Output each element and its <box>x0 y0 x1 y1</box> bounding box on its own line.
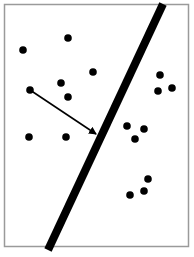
right-cluster-point <box>131 135 139 143</box>
right-cluster-point <box>140 125 148 133</box>
left-cluster-point <box>64 34 72 42</box>
right-cluster-point <box>144 175 152 183</box>
left-cluster-point <box>62 133 70 141</box>
separator-diagram <box>0 0 194 257</box>
right-cluster-point <box>156 71 164 79</box>
left-cluster-point <box>89 68 97 76</box>
left-cluster-point <box>19 46 27 54</box>
left-cluster-point <box>57 79 65 87</box>
right-cluster-point <box>123 122 131 130</box>
left-cluster-point <box>25 133 33 141</box>
left-cluster-point <box>64 93 72 101</box>
diagram-frame <box>5 5 189 247</box>
right-cluster-point <box>154 87 162 95</box>
right-cluster-point <box>168 84 176 92</box>
right-cluster-point <box>140 187 148 195</box>
right-cluster-point <box>126 191 134 199</box>
